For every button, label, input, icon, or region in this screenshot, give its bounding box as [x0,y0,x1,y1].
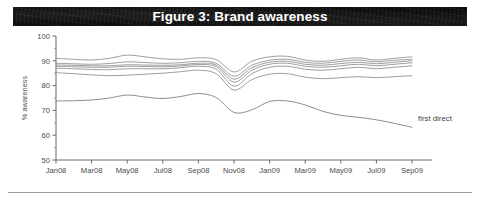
y-tick-label: 60 [42,131,50,140]
x-tick-label: Sep08 [187,166,209,175]
x-tick-label: Jul09 [367,166,385,175]
series-line [56,94,412,128]
x-tick-label: Mar09 [294,166,316,175]
series-annotation-first-direct: first direct [418,114,453,123]
series-line [56,59,412,76]
figure-title-banner: Figure 3: Brand awareness [13,7,467,26]
figure-container: Figure 3: Brand awareness 5060708090100%… [0,0,480,201]
x-tick-label: Sep09 [401,166,423,175]
y-tick-label: 90 [42,57,50,66]
x-tick-label: May09 [329,166,352,175]
brand-awareness-line-chart: 5060708090100% awarenessJan08Mar08May08J… [0,26,480,176]
y-axis-title: % awareness [20,76,29,121]
x-tick-label: Nov08 [223,166,245,175]
y-tick-label: 50 [42,156,50,165]
y-tick-label: 80 [42,81,50,90]
y-tick-label: 70 [42,106,50,115]
x-tick-label: May08 [116,166,139,175]
x-tick-label: Jan09 [259,166,280,175]
series-line [56,70,412,90]
x-tick-label: Jul08 [154,166,172,175]
chart-area: 5060708090100% awarenessJan08Mar08May08J… [0,26,480,176]
footer-divider [8,192,472,193]
y-tick-label: 100 [37,32,50,41]
page-title: Figure 3: Brand awareness [152,9,327,24]
x-tick-label: Mar08 [81,166,103,175]
x-tick-label: Jan08 [46,166,67,175]
